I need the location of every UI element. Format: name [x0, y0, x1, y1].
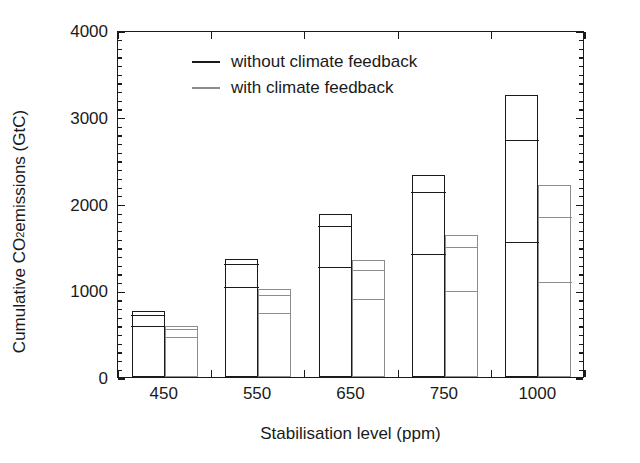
bar-segment-divider	[538, 282, 572, 283]
y-axis-tick	[579, 283, 583, 284]
y-axis-tick	[118, 335, 122, 336]
y-axis-tick	[579, 49, 583, 50]
y-axis-tick	[579, 222, 583, 223]
y-axis-tick	[579, 161, 583, 162]
y-axis-tick	[118, 300, 122, 301]
y-axis-tick	[576, 31, 583, 32]
legend-swatch-line-icon	[192, 87, 220, 89]
y-axis-tick	[118, 135, 122, 136]
y-axis-tick	[579, 127, 583, 128]
y-axis-tick	[118, 75, 122, 76]
bar-segment-divider	[318, 226, 352, 227]
y-axis-tick	[118, 161, 122, 162]
y-axis-tick	[118, 318, 122, 319]
x-axis-tick	[584, 370, 585, 377]
y-axis-tick	[576, 378, 583, 379]
bar-segment-divider	[411, 192, 445, 193]
bar-segment-divider	[164, 337, 198, 338]
y-axis-tick	[579, 83, 583, 84]
y-axis-tick	[118, 118, 125, 119]
y-axis-tick	[579, 75, 583, 76]
y-axis-tick	[579, 344, 583, 345]
x-axis-tick	[117, 370, 118, 377]
x-axis-tick-label: 650	[336, 385, 364, 402]
y-axis-tick	[579, 318, 583, 319]
legend-label: without climate feedback	[231, 52, 417, 72]
y-axis-tick	[579, 214, 583, 215]
y-axis-tick	[579, 370, 583, 371]
y-axis-tick	[579, 326, 583, 327]
chart-figure: Cumulative CO2 emissions (GtC) 010002000…	[0, 0, 640, 463]
x-axis-tick	[398, 32, 399, 39]
y-axis-tick	[579, 144, 583, 145]
bar-450-without-feedback	[132, 311, 165, 377]
bar-segment-divider	[318, 267, 352, 268]
y-axis-tick	[579, 248, 583, 249]
x-axis-tick	[117, 32, 118, 39]
y-axis-tick	[579, 335, 583, 336]
x-axis-tick-label: 750	[430, 385, 458, 402]
x-axis-tick	[304, 370, 305, 377]
x-axis-tick	[211, 32, 212, 39]
y-axis-tick	[118, 266, 122, 267]
bar-550-without-feedback	[225, 259, 258, 377]
bar-550-with-feedback	[258, 289, 291, 377]
bar-segment-divider	[351, 270, 385, 271]
y-axis-tick-label: 2000	[0, 196, 108, 213]
y-axis-tick	[576, 118, 583, 119]
y-axis-tick	[118, 40, 122, 41]
bar-450-with-feedback	[165, 326, 198, 377]
y-axis-tick	[118, 222, 122, 223]
y-axis-tick	[579, 57, 583, 58]
y-axis-tick	[118, 352, 122, 353]
y-axis-tick	[118, 361, 122, 362]
y-axis-tick	[576, 292, 583, 293]
bar-segment-divider	[224, 287, 258, 288]
y-axis-tick	[118, 344, 122, 345]
y-axis-tick	[118, 179, 122, 180]
y-axis-tick	[118, 92, 122, 93]
x-axis-tick	[491, 32, 492, 39]
bar-segment-divider	[538, 217, 572, 218]
y-axis-tick	[579, 188, 583, 189]
y-axis-tick	[118, 231, 122, 232]
y-axis-tick	[118, 170, 122, 171]
bar-segment-divider	[505, 140, 539, 141]
bar-750-with-feedback	[445, 235, 478, 377]
y-axis-tick	[579, 361, 583, 362]
y-axis-tick-label: 3000	[0, 109, 108, 126]
y-axis-tick	[118, 57, 122, 58]
x-axis-tick-label: 550	[243, 385, 271, 402]
y-axis-tick	[118, 83, 122, 84]
y-axis-tick	[579, 266, 583, 267]
bar-segment-divider	[505, 242, 539, 243]
bar-segment-divider	[258, 313, 292, 314]
bar-segment-divider	[411, 254, 445, 255]
y-axis-tick	[118, 292, 125, 293]
y-axis-tick	[576, 205, 583, 206]
y-axis-tick	[579, 257, 583, 258]
y-axis-tick	[118, 196, 122, 197]
bar-650-with-feedback	[352, 260, 385, 377]
y-axis-tick	[118, 378, 125, 379]
bar-1000-without-feedback	[505, 95, 538, 377]
y-axis-tick	[579, 309, 583, 310]
y-axis-tick	[579, 153, 583, 154]
bar-segment-divider	[131, 326, 165, 327]
y-axis-tick	[118, 101, 122, 102]
legend-label: with climate feedback	[231, 78, 394, 98]
y-axis-tick	[118, 66, 122, 67]
y-axis-tick	[579, 196, 583, 197]
y-axis-tick	[579, 101, 583, 102]
y-axis-tick-label: 0	[0, 370, 108, 387]
y-axis-tick	[579, 352, 583, 353]
bar-segment-divider	[445, 247, 479, 248]
y-axis-tick	[579, 231, 583, 232]
plot-area: without climate feedback with climate fe…	[117, 31, 584, 378]
x-axis-tick	[211, 370, 212, 377]
bar-segment-divider	[258, 295, 292, 296]
y-axis-tick-label: 1000	[0, 283, 108, 300]
y-axis-tick	[118, 240, 122, 241]
bar-650-without-feedback	[319, 214, 352, 377]
y-axis-tick	[118, 214, 122, 215]
